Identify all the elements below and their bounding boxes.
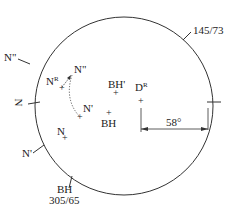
tick-label-n-double-prime: N" xyxy=(4,52,16,63)
tick-label-305-65: 305/65 xyxy=(49,195,80,206)
angle-arrow-left-icon xyxy=(141,127,148,131)
tick-label-n-prime: N' xyxy=(22,148,32,159)
point-label-bh: BH xyxy=(101,118,116,129)
primitive-circle xyxy=(35,17,213,195)
arrow-head-icon xyxy=(67,75,71,80)
tick-label-145-73: 145/73 xyxy=(193,25,224,36)
tick-145-73-line xyxy=(183,32,191,40)
tick-label-n: N xyxy=(13,99,24,107)
point-label-d-rotated: DR xyxy=(135,82,148,93)
point-label-n-rotated: NR xyxy=(46,76,59,87)
angle-label: 58° xyxy=(166,117,181,128)
point-marker-n-rotated: + xyxy=(59,83,65,93)
tick-n-double-prime-line xyxy=(18,59,30,64)
point-marker-n-prime: + xyxy=(77,112,83,122)
point-marker-n: + xyxy=(62,133,68,143)
point-label-n-double-prime: N" xyxy=(74,64,86,75)
point-marker-d-rotated: + xyxy=(138,96,144,106)
angle-arrow-right-icon xyxy=(201,127,208,131)
point-marker-bh-prime: + xyxy=(113,88,119,98)
tick-n-line xyxy=(28,102,40,104)
stereonet-diagram: 145/73 N" N N' BH 305/65 NR + N" N' + N … xyxy=(0,0,231,211)
tick-n-prime-line xyxy=(33,145,44,153)
point-label-n-prime: N' xyxy=(83,103,93,114)
